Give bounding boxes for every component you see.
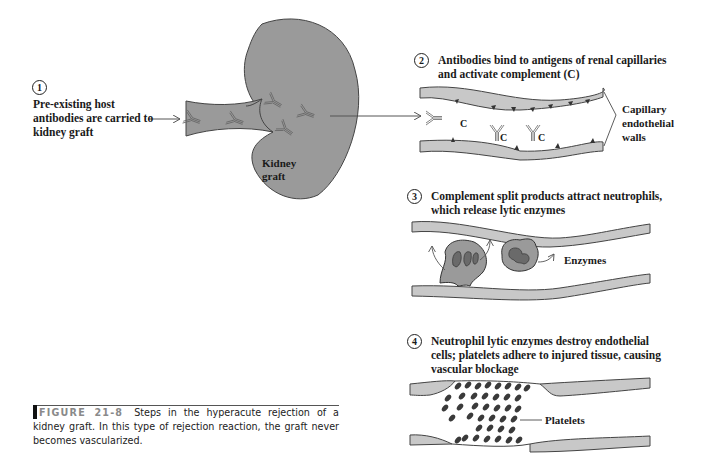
step-2-line-2: and activate complement (C) — [438, 67, 667, 81]
step2-capillary-illustration — [420, 87, 616, 160]
step-1-line-1: Pre-existing host — [33, 97, 153, 111]
step-3-line-2: which release lytic enzymes — [431, 203, 662, 217]
figure-label: FIGURE 21-8 — [39, 407, 123, 418]
complement-label-3: C — [538, 131, 545, 145]
platelets-label: Platelets — [545, 413, 585, 427]
step-4-line-1: Neutrophil lytic enzymes destroy endothe… — [431, 334, 661, 348]
complement-label-2: C — [500, 131, 507, 145]
figure-caption: FIGURE 21-8 Steps in the hyperacute reje… — [33, 406, 339, 448]
step-2-line-1: Antibodies bind to antigens of renal cap… — [438, 53, 667, 67]
kidney-label-line-2: graft — [262, 170, 296, 183]
kidney-graft-illustration — [183, 19, 421, 199]
step-3-number: 3 — [407, 189, 422, 204]
step-3-line-1: Complement split products attract neutro… — [431, 189, 662, 203]
step-1-line-2: antibodies are carried to — [33, 111, 153, 125]
step-2-number: 2 — [414, 53, 429, 68]
step-2-text: Antibodies bind to antigens of renal cap… — [438, 53, 667, 81]
step-3-text: Complement split products attract neutro… — [431, 189, 662, 217]
capillary-label-line-2: endothelial — [622, 116, 674, 130]
kidney-graft-label: Kidney graft — [262, 157, 296, 183]
step4-vessel-illustration — [410, 378, 650, 452]
capillary-label-line-3: walls — [622, 130, 674, 144]
platelets-cluster — [441, 380, 532, 444]
complement-label-1: C — [460, 117, 467, 131]
step-4-text: Neutrophil lytic enzymes destroy endothe… — [431, 334, 661, 376]
step-1-number: 1 — [32, 80, 47, 95]
enzymes-label: Enzymes — [564, 253, 606, 267]
capillary-walls-label: Capillary endothelial walls — [622, 102, 674, 144]
capillary-label-line-1: Capillary — [622, 102, 674, 116]
step-4-number: 4 — [407, 334, 422, 349]
kidney-label-line-1: Kidney — [262, 157, 296, 170]
step-1-text: Pre-existing host antibodies are carried… — [33, 97, 153, 139]
step-4-line-2: cells; platelets adhere to injured tissu… — [431, 348, 661, 362]
step3-capillary-illustration — [412, 222, 650, 300]
step-1-line-3: kidney graft — [33, 125, 153, 139]
step-4-line-3: vascular blockage — [431, 362, 661, 376]
